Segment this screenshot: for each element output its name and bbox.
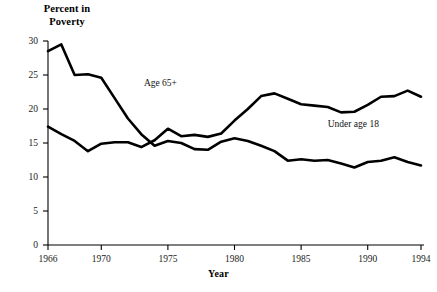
- y-axis-tick-label: 15: [8, 138, 38, 148]
- y-axis-tick-label: 25: [8, 70, 38, 80]
- y-axis-ticks: [43, 41, 48, 245]
- x-axis-tick-label: 1990: [358, 254, 377, 264]
- data-series-group: [48, 44, 421, 167]
- series-label-under-age-18: Under age 18: [328, 119, 379, 129]
- x-axis-tick-label: 1985: [292, 254, 311, 264]
- y-axis-tick-label: 0: [8, 240, 38, 250]
- x-axis-tick-label: 1994: [412, 254, 431, 264]
- x-axis-tick-label: 1975: [158, 254, 177, 264]
- y-axis-tick-label: 30: [8, 36, 38, 46]
- y-axis-tick-label: 20: [8, 104, 38, 114]
- poverty-line-chart: Percent in Poverty 051015202530 19661970…: [0, 0, 437, 292]
- y-axis-tick-label: 10: [8, 172, 38, 182]
- x-axis-tick-label: 1970: [92, 254, 111, 264]
- x-axis-title: Year: [0, 268, 437, 279]
- x-axis-tick-label: 1980: [225, 254, 244, 264]
- y-axis-tick-label: 5: [8, 206, 38, 216]
- x-axis-ticks: [48, 245, 421, 250]
- series-label-age-65-plus: Age 65+: [144, 78, 177, 88]
- plot-area: [0, 0, 437, 292]
- x-axis-tick-label: 1966: [39, 254, 58, 264]
